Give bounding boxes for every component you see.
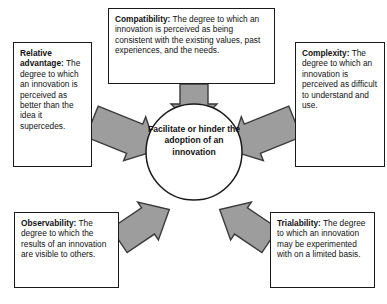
attribute-box-trialability[interactable]: Trialability: The degree to which an inn… [270, 212, 375, 288]
attribute-box-compatibility[interactable]: Compatibility: The degree to which an in… [108, 8, 275, 84]
attribute-box-complexity[interactable]: Complexity: The degree to which an innov… [295, 42, 385, 167]
attribute-box-observability[interactable]: Observability: The degree to which the r… [14, 212, 119, 288]
attribute-box-relative-advantage[interactable]: Relative advantage: The degree to which … [13, 42, 92, 167]
attribute-description-relative-advantage: The degree to which an innovation is per… [20, 58, 80, 130]
attribute-term-observability: Observability: [21, 218, 76, 228]
attribute-term-compatibility: Compatibility: [115, 14, 170, 24]
diagram-canvas: Facilitate or hinder the adoption of an … [0, 0, 387, 304]
attribute-term-trialability: Trialability: [277, 218, 321, 228]
attribute-term-complexity: Complexity: [302, 48, 349, 58]
center-circle-label: Facilitate or hinder the adoption of an … [146, 124, 242, 158]
attribute-term-relative-advantage: Relative advantage: [20, 48, 64, 68]
